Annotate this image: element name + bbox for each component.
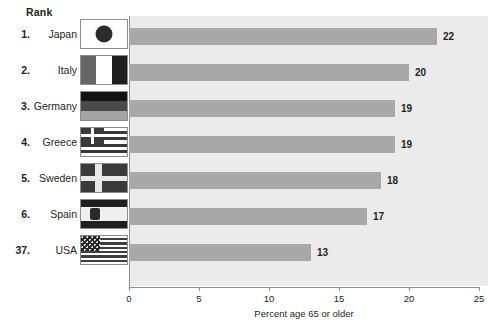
x-tick-label: 0 [126,293,131,304]
table-row: 6. Spain [0,196,128,232]
flag-spain-icon [80,199,128,229]
table-row: 4. Greece [0,124,128,160]
table-row: 2. Italy [0,52,128,88]
bar-value-label: 19 [401,136,412,153]
bar-value-label: 22 [443,28,454,45]
x-tick [199,287,200,291]
x-tick-label: 15 [334,293,345,304]
bar [129,28,437,45]
bar-value-label: 17 [373,208,384,225]
rank-value: 37. [0,244,34,256]
bar-value-label: 18 [387,172,398,189]
flag-germany-icon [80,91,128,121]
rank-value: 2. [0,64,34,76]
table-row: 1. Japan [0,16,128,52]
x-tick-label: 20 [404,293,415,304]
rank-value: 4. [0,136,34,148]
bar [129,136,395,153]
table-row: 5. Sweden [0,160,128,196]
table-row: 3. Germany [0,88,128,124]
country-label: Italy [34,64,80,76]
flag-japan-icon [80,19,128,49]
x-axis-line [129,287,479,288]
flag-greece-icon [80,127,128,157]
country-label: USA [34,244,80,256]
country-label: Sweden [34,172,80,184]
flag-sweden-icon [80,163,128,193]
country-label: Germany [34,100,80,112]
bar-value-label: 20 [415,64,426,81]
table-row: 37. USA [0,232,128,268]
rank-value: 5. [0,172,34,184]
flag-italy-icon [80,55,128,85]
x-tick [129,287,130,291]
bar [129,100,395,117]
country-label: Greece [34,136,80,148]
country-label: Spain [34,208,80,220]
x-tick [479,287,480,291]
x-axis-title: Percent age 65 or older [129,308,479,319]
x-tick [339,287,340,291]
bar-value-label: 13 [317,244,328,261]
bar-value-label: 19 [401,100,412,117]
flag-usa-icon [80,235,128,265]
chart-figure: Rank 1. Japan 2. Italy 3. Germany 4. Gre… [0,0,488,330]
x-tick [269,287,270,291]
rank-value: 6. [0,208,34,220]
x-tick [409,287,410,291]
country-label: Japan [34,28,80,40]
rank-value: 1. [0,28,34,40]
x-tick-label: 10 [264,293,275,304]
x-tick-label: 5 [196,293,201,304]
bar [129,208,367,225]
rank-value: 3. [0,100,34,112]
bar [129,244,311,261]
bar [129,64,409,81]
country-label-column: 1. Japan 2. Italy 3. Germany 4. Greece [0,16,128,286]
x-tick-label: 25 [474,293,485,304]
bar [129,172,381,189]
